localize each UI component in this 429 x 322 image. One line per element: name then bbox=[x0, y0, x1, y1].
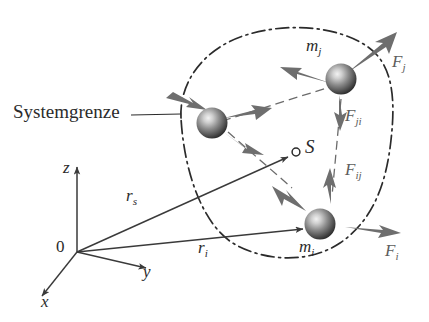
mass-mi-base: m bbox=[299, 237, 311, 256]
center-of-mass-marker bbox=[292, 148, 300, 156]
force-Fji-base: F bbox=[345, 106, 355, 125]
system-boundary-label: Systemgrenze bbox=[13, 101, 120, 123]
arrow-left-downright bbox=[222, 131, 264, 155]
mass-mj-base: m bbox=[306, 36, 318, 55]
force-Fj-sub: j bbox=[402, 61, 405, 73]
force-Fji-sub: ji bbox=[355, 115, 361, 127]
mass-mi-label: mi bbox=[299, 237, 314, 258]
force-Fi-sub: i bbox=[395, 250, 398, 262]
arrow-mj-left-Fji-pair bbox=[280, 67, 330, 83]
particle-mi bbox=[305, 209, 336, 240]
force-Fji-label: Fji bbox=[345, 106, 362, 127]
force-Fi-label: Fi bbox=[385, 241, 399, 262]
force-Fij-label: Fij bbox=[345, 160, 362, 181]
vector-ri-label: ri bbox=[198, 238, 208, 259]
figure-canvas: Systemgrenze z y x 0 rs ri S mj mi Fj Fi… bbox=[0, 0, 429, 322]
force-Fj-base: F bbox=[392, 52, 402, 71]
mass-mj-sub: j bbox=[318, 45, 321, 57]
vector-rs bbox=[77, 157, 288, 252]
vector-rs-label: rs bbox=[126, 186, 137, 207]
arrow-left-upleft bbox=[166, 92, 207, 110]
force-Fi-base: F bbox=[385, 241, 395, 260]
y-axis bbox=[77, 252, 146, 268]
x-axis bbox=[42, 252, 77, 296]
mass-mi-sub: i bbox=[311, 246, 314, 258]
systemgrenze-leader-line bbox=[131, 114, 181, 115]
mass-mj-label: mj bbox=[306, 36, 321, 57]
arrow-left-right bbox=[224, 105, 272, 120]
vector-ri bbox=[77, 229, 303, 252]
particles bbox=[197, 64, 357, 240]
y-axis-label: y bbox=[143, 262, 151, 282]
vector-ri-base: r bbox=[198, 238, 205, 257]
force-Fij-base: F bbox=[345, 160, 355, 179]
center-of-mass-label: S bbox=[305, 136, 315, 158]
vector-rs-base: r bbox=[126, 186, 133, 205]
particle-left bbox=[197, 108, 228, 139]
vector-rs-sub: s bbox=[133, 195, 137, 207]
interparticle-connectors bbox=[222, 86, 341, 196]
vector-ri-sub: i bbox=[205, 247, 208, 259]
arrow-Fj-external bbox=[347, 32, 397, 73]
arrow-mi-upleft bbox=[272, 186, 306, 211]
particle-mj bbox=[326, 64, 357, 95]
origin-label: 0 bbox=[56, 237, 65, 257]
force-Fj-label: Fj bbox=[392, 52, 406, 73]
z-axis-label: z bbox=[63, 158, 70, 178]
x-axis-label: x bbox=[41, 292, 49, 312]
force-Fij-sub: ij bbox=[355, 169, 361, 181]
